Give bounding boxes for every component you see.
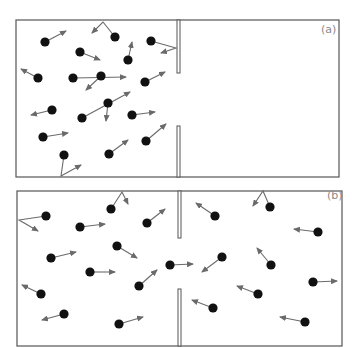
gas-molecule xyxy=(192,300,218,313)
molecule-dot xyxy=(114,319,123,328)
molecule-dot xyxy=(75,47,84,56)
panel-b: (b) xyxy=(17,189,343,346)
molecule-dot xyxy=(127,110,136,119)
molecule-dot xyxy=(106,204,115,213)
molecule-dot xyxy=(59,309,68,318)
molecule-dot xyxy=(210,211,219,220)
gas-molecule xyxy=(142,209,165,228)
panel-label: (a) xyxy=(321,23,336,36)
gas-molecule xyxy=(22,285,46,299)
molecule-dot xyxy=(266,260,275,269)
gas-molecule xyxy=(237,286,263,299)
gas-molecule xyxy=(114,317,143,329)
molecule-dot xyxy=(38,132,47,141)
molecule-dot xyxy=(112,241,121,250)
molecule-dot xyxy=(300,317,309,326)
divider-wall-lower xyxy=(177,126,180,177)
gas-molecule xyxy=(141,124,166,146)
gas-molecule xyxy=(19,211,51,231)
molecule-dot xyxy=(308,277,317,286)
gas-molecule xyxy=(46,252,76,263)
gas-molecule xyxy=(123,42,132,65)
molecule-dot xyxy=(47,105,56,114)
gas-molecule xyxy=(31,105,57,115)
gas-molecule xyxy=(103,98,112,121)
molecule-dot xyxy=(265,202,274,211)
molecule-dot xyxy=(123,55,132,64)
divider-wall-upper xyxy=(177,20,180,73)
gas-molecule xyxy=(106,192,128,214)
molecule-dot xyxy=(217,252,226,261)
molecule-dot xyxy=(141,136,150,145)
gas-molecule xyxy=(165,260,193,269)
gas-effusion-diagram: (a) (b) xyxy=(0,0,352,348)
molecule-dot xyxy=(146,36,155,45)
gas-molecule xyxy=(75,47,100,60)
gas-molecule xyxy=(77,92,130,123)
gas-molecule xyxy=(40,31,66,47)
gas-molecule xyxy=(38,132,68,141)
gas-molecule xyxy=(75,222,105,231)
molecule-dot xyxy=(40,37,49,46)
molecule-dot xyxy=(46,253,55,262)
molecule-dot xyxy=(59,150,68,159)
gas-molecule xyxy=(253,191,275,212)
molecule-dot xyxy=(313,227,322,236)
molecule-dot xyxy=(104,149,113,158)
molecule-dot xyxy=(41,211,50,220)
gas-molecule xyxy=(280,317,310,327)
gas-molecule xyxy=(92,22,120,42)
gas-molecule xyxy=(202,252,227,272)
gas-molecule xyxy=(294,227,323,236)
velocity-arrow-icon xyxy=(19,216,46,231)
gas-molecule xyxy=(196,203,220,221)
molecule-dot xyxy=(253,289,262,298)
gas-molecule xyxy=(257,248,276,270)
divider-wall-upper xyxy=(178,191,181,238)
molecule-dot xyxy=(33,73,42,82)
molecule-dot xyxy=(77,113,86,122)
gas-molecule xyxy=(86,71,106,90)
molecule-dot xyxy=(75,222,84,231)
gas-molecule xyxy=(104,140,128,159)
gas-molecule xyxy=(134,270,157,291)
gas-molecule xyxy=(112,241,137,258)
gas-molecule xyxy=(308,277,337,286)
molecule-dot xyxy=(140,77,149,86)
gas-molecule xyxy=(146,36,176,53)
gas-molecule xyxy=(42,309,69,320)
gas-molecule xyxy=(59,150,81,176)
divider-wall-lower xyxy=(178,289,181,346)
molecule-dot xyxy=(85,267,94,276)
molecule-dot xyxy=(142,218,151,227)
molecule-dot xyxy=(68,73,77,82)
molecule-dot xyxy=(96,71,105,80)
molecule-dot xyxy=(110,32,119,41)
molecule-dot xyxy=(103,98,112,107)
gas-molecule xyxy=(85,267,115,276)
gas-molecule xyxy=(140,72,165,87)
gas-molecule xyxy=(127,110,155,119)
molecule-dot xyxy=(134,281,143,290)
panel-label: (b) xyxy=(327,189,343,202)
molecule-dot xyxy=(165,260,174,269)
molecule-dot xyxy=(36,289,45,298)
molecule-dot xyxy=(208,303,217,312)
panel-a: (a) xyxy=(16,20,339,177)
gas-molecule xyxy=(21,69,43,83)
